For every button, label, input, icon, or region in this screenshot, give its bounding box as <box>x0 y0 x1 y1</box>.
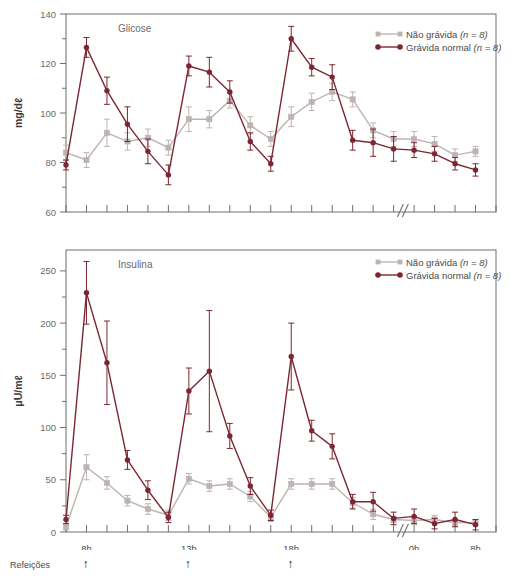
legend-label: Grávida normal (n = 8) <box>406 42 501 53</box>
x-tick-label: 18h <box>283 543 299 550</box>
insulina-plot-svg: 050100150200250μU/mℓInsulinaNão grávida … <box>0 240 527 550</box>
x-tick-label: 8h <box>470 543 481 550</box>
legend-label: Grávida normal (n = 8) <box>406 270 501 281</box>
y-tick-label: 200 <box>40 318 56 329</box>
chart-panel-insulina: 050100150200250μU/mℓInsulinaNão grávida … <box>0 240 527 550</box>
x-tick-label: 13h <box>181 543 197 550</box>
legend-label: Não grávida (n = 8) <box>406 29 488 40</box>
figure-container: 6080100120140mg/dℓGlicoseNão grávida (n … <box>0 0 527 582</box>
y-tick-label: 250 <box>40 265 56 276</box>
y-tick-label: 120 <box>40 58 56 69</box>
y-tick-label: 100 <box>40 108 56 119</box>
legend-label: Não grávida (n = 8) <box>406 257 488 268</box>
x-tick-label: 8h <box>81 543 92 550</box>
x-tick-label: 0h <box>409 543 420 550</box>
y-tick-label: 80 <box>45 157 56 168</box>
series-pregnant <box>63 261 479 529</box>
legend: Não grávida (n = 8)Grávida normal (n = 8… <box>375 257 501 281</box>
meals-label: Refeições <box>10 560 50 570</box>
chart-panel-glicose: 6080100120140mg/dℓGlicoseNão grávida (n … <box>0 0 527 232</box>
meal-arrow-13h: ↑ <box>185 558 191 570</box>
meal-arrow-18h: ↑ <box>287 558 293 570</box>
legend: Não grávida (n = 8)Grávida normal (n = 8… <box>375 29 501 53</box>
y-axis-title: mg/dℓ <box>12 98 24 128</box>
y-tick-label: 150 <box>40 370 56 381</box>
y-tick-label: 0 <box>51 527 56 538</box>
panel-title: Insulina <box>118 259 153 270</box>
panel-title: Glicose <box>118 23 152 34</box>
glicose-plot-svg: 6080100120140mg/dℓGlicoseNão grávida (n … <box>0 0 527 232</box>
y-tick-label: 60 <box>45 207 56 218</box>
y-tick-label: 100 <box>40 422 56 433</box>
y-tick-label: 140 <box>40 9 56 20</box>
meal-arrow-8h: ↑ <box>82 558 88 570</box>
y-axis-title: μU/mℓ <box>12 375 24 406</box>
y-tick-label: 50 <box>45 474 56 485</box>
